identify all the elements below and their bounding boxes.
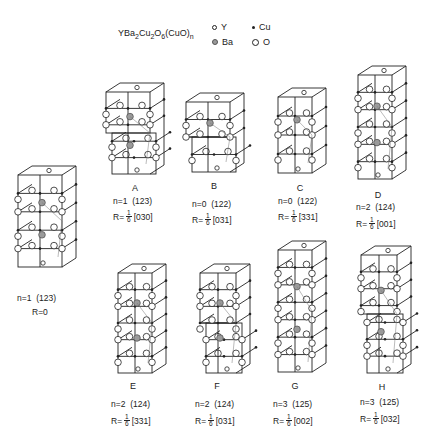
legend-item-o: O bbox=[252, 37, 270, 47]
r-prefix: R= bbox=[111, 416, 122, 426]
unit-cell-drawing bbox=[355, 243, 417, 379]
formula-part: (CuO) bbox=[165, 28, 190, 38]
structure-letter: C bbox=[270, 183, 330, 193]
unit-cell-drawing bbox=[272, 238, 332, 378]
structure-base bbox=[12, 163, 82, 273]
unit-cell-drawing bbox=[180, 90, 250, 178]
structure-F bbox=[194, 261, 256, 379]
unit-cell-drawing bbox=[352, 63, 412, 185]
structure-C bbox=[272, 85, 332, 179]
legend-label: Y bbox=[221, 22, 227, 32]
r-vector: [331] bbox=[132, 416, 151, 426]
barium-icon bbox=[212, 39, 218, 45]
legend-label: Cu bbox=[259, 22, 271, 32]
fraction: 16 bbox=[286, 414, 292, 427]
n-value-label: n=2 (124) bbox=[195, 399, 234, 409]
n-value-label: n=1 (123) bbox=[17, 293, 56, 303]
unit-cell-drawing bbox=[100, 80, 170, 180]
fraction-denominator: 6 bbox=[209, 421, 213, 427]
r-vector: [001] bbox=[377, 219, 396, 229]
formula-sub: n bbox=[190, 33, 194, 40]
fraction: 16 bbox=[208, 414, 214, 427]
structure-letter: H bbox=[352, 382, 412, 392]
n-value-label: n=3 (125) bbox=[273, 399, 312, 409]
legend-item-ba: Ba bbox=[212, 37, 233, 47]
fraction-denominator: 6 bbox=[374, 419, 378, 425]
structure-G bbox=[272, 238, 332, 378]
r-prefix: R= bbox=[192, 215, 203, 225]
unit-cell-drawing bbox=[112, 261, 172, 379]
formula-part: YBa bbox=[118, 28, 135, 38]
n-value-label: n=1 (123) bbox=[113, 196, 152, 206]
r-vector: [002] bbox=[294, 416, 313, 426]
fraction: 16 bbox=[369, 217, 375, 230]
fraction: 16 bbox=[124, 414, 130, 427]
structure-letter: F bbox=[187, 381, 247, 391]
r-vector-label: R=16[331] bbox=[111, 414, 151, 427]
r-prefix: R=0 bbox=[32, 307, 48, 317]
yttrium-icon bbox=[212, 25, 217, 30]
structure-letter: D bbox=[348, 190, 408, 200]
structure-A bbox=[100, 80, 170, 180]
fraction-denominator: 6 bbox=[292, 217, 296, 223]
n-value-label: n=2 (124) bbox=[356, 202, 395, 212]
n-value-label: n=0 (122) bbox=[278, 196, 317, 206]
unit-cell-drawing bbox=[272, 85, 332, 179]
r-vector-label: R=0 bbox=[32, 307, 48, 317]
r-vector-label: R=16[031] bbox=[195, 414, 235, 427]
structure-letter: A bbox=[105, 183, 165, 193]
n-value-label: n=2 (124) bbox=[111, 399, 150, 409]
r-prefix: R= bbox=[360, 414, 371, 424]
r-vector: [331] bbox=[299, 212, 318, 222]
fraction: 16 bbox=[205, 213, 211, 226]
structure-B bbox=[180, 90, 250, 178]
unit-cell-drawing bbox=[194, 261, 256, 379]
n-value-label: n=3 (125) bbox=[360, 397, 399, 407]
r-vector: [031] bbox=[213, 215, 232, 225]
r-prefix: R= bbox=[273, 416, 284, 426]
formula-part: Cu bbox=[139, 28, 151, 38]
unit-cell-drawing bbox=[12, 163, 82, 273]
legend-item-y: Y bbox=[212, 22, 227, 32]
r-vector: [032] bbox=[381, 414, 400, 424]
fraction: 16 bbox=[373, 412, 379, 425]
r-prefix: R= bbox=[113, 212, 124, 222]
structure-H bbox=[355, 243, 417, 379]
fraction-denominator: 6 bbox=[287, 421, 291, 427]
r-vector-label: R=16[002] bbox=[273, 414, 313, 427]
legend-label: O bbox=[263, 37, 270, 47]
structure-letter: G bbox=[265, 381, 325, 391]
r-vector-label: R=16[032] bbox=[360, 412, 400, 425]
legend: Y Cu Ba O bbox=[212, 22, 302, 52]
oxygen-icon bbox=[252, 39, 259, 46]
fraction-denominator: 6 bbox=[370, 224, 374, 230]
fraction: 16 bbox=[291, 210, 297, 223]
fraction-denominator: 6 bbox=[127, 217, 131, 223]
structure-D bbox=[352, 63, 412, 185]
r-vector-label: R=16[031] bbox=[192, 213, 232, 226]
fraction-denominator: 6 bbox=[206, 220, 210, 226]
copper-icon bbox=[252, 26, 255, 29]
r-vector-label: R=16[331] bbox=[278, 210, 318, 223]
fraction: 16 bbox=[126, 210, 132, 223]
r-vector-label: R=16[001] bbox=[356, 217, 396, 230]
structure-E bbox=[112, 261, 172, 379]
r-vector-label: R=16[030] bbox=[113, 210, 153, 223]
fraction-denominator: 6 bbox=[125, 421, 129, 427]
structure-letter: E bbox=[103, 381, 163, 391]
r-prefix: R= bbox=[195, 416, 206, 426]
n-value-label: n=0 (122) bbox=[192, 199, 231, 209]
r-vector: [030] bbox=[134, 212, 153, 222]
r-prefix: R= bbox=[356, 219, 367, 229]
legend-label: Ba bbox=[222, 37, 233, 47]
structure-letter: B bbox=[184, 181, 244, 191]
r-vector: [031] bbox=[216, 416, 235, 426]
r-prefix: R= bbox=[278, 212, 289, 222]
legend-item-cu: Cu bbox=[252, 22, 271, 32]
chemical-formula: YBa2Cu2O6(CuO)n bbox=[118, 28, 194, 40]
